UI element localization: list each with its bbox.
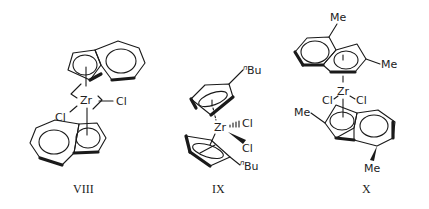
lower-indenyl <box>30 120 106 165</box>
zr-cl-bond <box>70 106 77 112</box>
solid-wedge-bond <box>370 146 377 161</box>
zr-atom: Zr <box>214 121 227 134</box>
hashed-wedge-bond <box>230 121 239 127</box>
upper-cp-ring <box>191 70 243 115</box>
zr-atom: Zr <box>337 85 350 98</box>
compound-x: Me Me Zr Cl Cl <box>294 11 397 196</box>
methyl-label: Me <box>381 58 397 71</box>
zr-cl-bond <box>350 96 355 99</box>
lower-cp-ring <box>186 136 240 166</box>
cl-atom: Cl <box>116 95 127 108</box>
compound-label-x: X <box>362 182 371 196</box>
methyl-label: Me <box>330 11 346 24</box>
upper-indenyl <box>68 41 145 80</box>
compound-label-viii: VIII <box>73 182 94 196</box>
lower-indenyl <box>311 105 395 146</box>
cl-atom: Cl <box>242 117 253 130</box>
butyl-bond <box>229 70 243 84</box>
compound-ix: n Bu Zr Cl Cl n Bu IX <box>186 64 262 196</box>
cl-atom: Cl <box>356 94 367 107</box>
upper-indenyl <box>295 37 380 72</box>
diagram-canvas: Zr Cl Cl VIII n Bu <box>0 0 429 209</box>
cl-atom: Cl <box>322 94 333 107</box>
ethylene-bridge <box>93 96 102 109</box>
cl-atom: Cl <box>242 142 253 155</box>
butyl-label: Bu <box>247 64 262 77</box>
methyl-label: Me <box>364 162 380 175</box>
methyl-bond <box>366 59 380 64</box>
methyl-label: Me <box>294 106 310 119</box>
compound-label-ix: IX <box>212 182 225 196</box>
compound-viii: Zr Cl Cl VIII <box>30 41 145 196</box>
butyl-label: Bu <box>244 160 259 173</box>
methyl-bond <box>311 113 325 123</box>
zr-atom: Zr <box>80 94 93 107</box>
methyl-bond <box>329 24 337 37</box>
butyl-bond <box>230 157 240 165</box>
